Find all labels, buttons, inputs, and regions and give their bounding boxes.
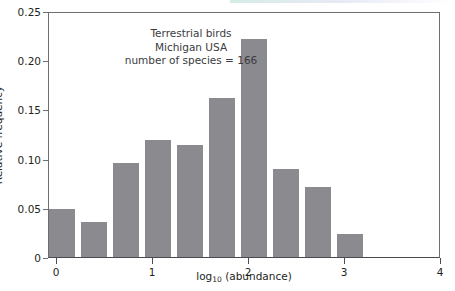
bar xyxy=(241,39,267,257)
x-tick xyxy=(152,258,153,264)
bar xyxy=(113,163,139,257)
y-tick xyxy=(43,258,48,259)
x-tick xyxy=(440,258,441,264)
x-tick-label: 0 xyxy=(53,266,60,278)
x-axis-title-rest: (abundance) xyxy=(222,270,292,282)
y-tick xyxy=(43,12,48,13)
y-tick-label: 0 xyxy=(34,252,41,264)
annotation-line-3: number of species = 166 xyxy=(111,54,271,68)
y-tick-label: 0.20 xyxy=(18,55,41,67)
x-axis-title-subscript: 10 xyxy=(212,275,222,284)
y-tick xyxy=(43,209,48,210)
plot-area: Terrestrial birds Michigan USA number of… xyxy=(48,12,440,258)
x-axis-title: log10 (abundance) xyxy=(196,270,292,284)
y-tick-label: 0.25 xyxy=(18,6,41,18)
y-tick-label: 0.05 xyxy=(18,203,41,215)
annotation-line-1: Terrestrial birds xyxy=(111,27,271,41)
y-tick xyxy=(43,110,48,111)
y-tick xyxy=(43,160,48,161)
bar xyxy=(305,187,331,257)
x-tick xyxy=(344,258,345,264)
x-axis-title-base: log xyxy=(196,270,212,282)
bar xyxy=(209,98,235,257)
x-tick xyxy=(248,258,249,264)
x-tick xyxy=(56,258,57,264)
x-tick-label: 4 xyxy=(437,266,444,278)
figure: Terrestrial birds Michigan USA number of… xyxy=(0,0,455,291)
bar xyxy=(273,169,299,257)
annotation-line-2: Michigan USA xyxy=(111,41,271,55)
y-tick-label: 0.15 xyxy=(18,104,41,116)
bar xyxy=(145,140,171,257)
y-axis-title: Relative frequency xyxy=(0,86,4,184)
bar xyxy=(49,209,75,257)
y-tick xyxy=(43,61,48,62)
y-tick-label: 0.10 xyxy=(18,154,41,166)
x-tick-label: 3 xyxy=(341,266,348,278)
scan-artifact xyxy=(230,0,455,3)
chart-annotation: Terrestrial birds Michigan USA number of… xyxy=(111,27,271,68)
bar xyxy=(337,234,363,257)
x-tick-label: 1 xyxy=(149,266,156,278)
bar xyxy=(81,222,107,257)
bar xyxy=(177,145,203,257)
